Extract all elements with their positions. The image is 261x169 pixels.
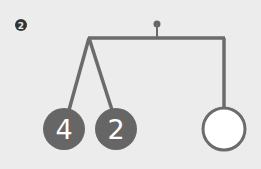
unknown-weight (203, 108, 245, 150)
balance-mobile-diagram: 2 4 2 (0, 0, 261, 169)
left-string-a (69, 38, 89, 110)
step-number: 2 (18, 21, 24, 31)
step-badge: 2 (15, 19, 27, 31)
weight-4-label: 4 (55, 114, 72, 145)
weight-2-label: 2 (107, 114, 124, 145)
weight-4: 4 (43, 108, 85, 150)
weight-2: 2 (95, 108, 137, 150)
hanger (154, 21, 161, 39)
left-string-b (89, 38, 112, 110)
